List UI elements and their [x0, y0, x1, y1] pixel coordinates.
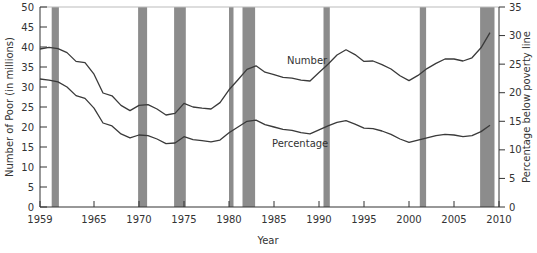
x-tick-label: 1970	[126, 214, 151, 225]
y-tick-label-right: 5	[509, 173, 515, 184]
y-tick-label-right: 30	[509, 30, 522, 41]
y-tick-label-right: 20	[509, 87, 522, 98]
x-tick-label: 1990	[306, 214, 331, 225]
y-tick-label-right: 15	[509, 116, 522, 127]
recession-band	[420, 7, 426, 207]
recession-band	[243, 7, 256, 207]
recession-band	[324, 7, 330, 207]
x-tick-label: 1965	[81, 214, 106, 225]
y-tick-label-left: 35	[21, 62, 34, 73]
recession-band	[52, 7, 59, 207]
y-tick-label-left: 15	[21, 142, 34, 153]
y-axis-right-title: Percentage below poverty line	[521, 31, 532, 183]
y-tick-label-left: 0	[28, 202, 34, 213]
y-tick-label-left: 20	[21, 122, 34, 133]
x-axis-title: Year	[256, 235, 279, 246]
percentage-series-label: Percentage	[272, 138, 328, 149]
y-tick-label-left: 40	[21, 42, 34, 53]
y-axis-left-title: Number of Poor (in millions)	[4, 37, 15, 177]
y-tick-label-right: 10	[509, 144, 522, 155]
y-tick-label-left: 5	[28, 182, 34, 193]
x-tick-label: 1995	[351, 214, 376, 225]
y-tick-label-left: 10	[21, 162, 34, 173]
y-tick-label-right: 25	[509, 59, 522, 70]
y-tick-label-left: 45	[21, 22, 34, 33]
x-tick-label: 1975	[171, 214, 196, 225]
recession-band	[229, 7, 234, 207]
recession-bands	[52, 7, 495, 207]
x-tick-label: 1985	[261, 214, 286, 225]
x-tick-label: 1980	[216, 214, 241, 225]
recession-band	[138, 7, 147, 207]
x-tick-label: 2000	[396, 214, 421, 225]
number-series-label: Number	[287, 55, 328, 66]
y-tick-label-right: 35	[509, 2, 522, 13]
poverty-chart: 0510152025303540455005101520253035195919…	[0, 0, 537, 253]
x-tick-label: 1959	[27, 214, 52, 225]
y-tick-label-left: 50	[21, 2, 34, 13]
y-tick-label-left: 25	[21, 102, 34, 113]
x-tick-label: 2010	[486, 214, 511, 225]
y-tick-label-left: 30	[21, 82, 34, 93]
y-tick-label-right: 0	[509, 202, 515, 213]
axes: 0510152025303540455005101520253035195919…	[21, 2, 521, 226]
x-tick-label: 2005	[441, 214, 466, 225]
